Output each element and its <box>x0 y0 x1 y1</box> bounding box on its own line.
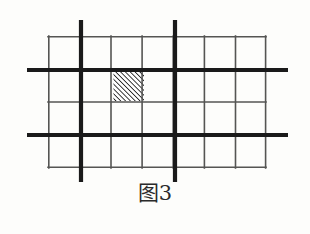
hatched-cell <box>114 71 145 102</box>
figure-container: 图3 <box>0 0 310 234</box>
figure-caption: 图3 <box>0 180 310 206</box>
